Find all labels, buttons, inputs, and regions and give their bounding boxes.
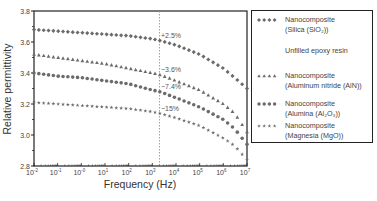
x-axis: 10-210-110-0101102103104105106107 <box>26 163 251 176</box>
legend-label: Nanocomposite <box>285 15 377 25</box>
y-tick-label: 3.4 <box>20 70 30 77</box>
annotation-label: −3.6% <box>161 66 181 73</box>
legend-label: Unfilled epoxy resin <box>285 46 377 56</box>
legend: Nanocomposite(Silica (SiO₂)) Unfilled ep… <box>251 10 373 143</box>
annotation-label: −15% <box>161 105 179 112</box>
legend-label: Nanocomposite <box>285 121 377 131</box>
x-tick-label: 106 <box>216 168 227 176</box>
legend-sublabel: (Silica (SiO₂)) <box>285 25 377 35</box>
x-tick-label: 101 <box>98 168 109 176</box>
x-tick-label: 10-1 <box>50 168 62 176</box>
y-axis-title: Relative permittivity <box>1 43 13 135</box>
x-tick-label: 107 <box>240 168 251 176</box>
series-triangle <box>32 52 249 133</box>
legend-label: Nanocomposite <box>285 71 377 81</box>
legend-sublabel: (Alumina (Al₂O₃)) <box>285 109 377 119</box>
legend-sublabel: (Magnesia (MgO)) <box>285 131 377 141</box>
x-axis-title: Frequency (Hz) <box>104 178 176 190</box>
y-tick-label: 3.8 <box>20 8 30 15</box>
y-tick-label: 3.6 <box>20 39 30 46</box>
diamond-marker-icon <box>256 15 282 25</box>
circle-marker-icon <box>256 99 282 109</box>
x-tick-label: 105 <box>193 168 204 176</box>
legend-label: Nanocomposite <box>285 99 377 109</box>
triangle-marker-icon <box>256 71 282 81</box>
x-tick-label: 102 <box>122 168 133 176</box>
no-marker-icon <box>256 46 282 56</box>
x-tick-label: 10-2 <box>26 168 38 176</box>
y-tick-label: 3.0 <box>20 132 30 139</box>
x-tick-label: 104 <box>169 168 180 176</box>
x-tick-label: 10-0 <box>73 168 85 176</box>
data-series <box>32 28 249 162</box>
series-star <box>32 100 249 161</box>
annotation-label: −7.4% <box>161 83 181 90</box>
y-axis: 2.83.03.23.43.63.8 <box>20 8 34 170</box>
star-marker-icon <box>256 121 282 131</box>
legend-sublabel: (Aluminum nitride (AlN)) <box>285 81 377 91</box>
y-tick-label: 3.2 <box>20 101 30 108</box>
x-tick-label: 103 <box>145 168 156 176</box>
annotation-label: +2.5% <box>161 32 181 39</box>
